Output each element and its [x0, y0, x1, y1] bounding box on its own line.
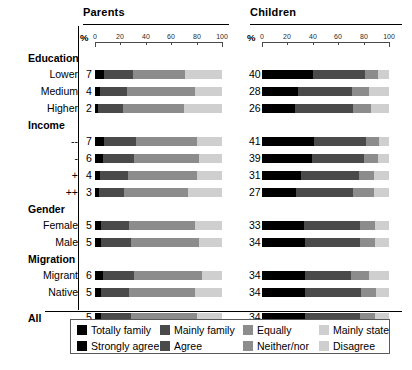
row-value-parents: 7 [86, 68, 92, 80]
axis-tick-label: 0 [93, 33, 97, 40]
legend-label: Disagree [333, 341, 375, 352]
bar-children [262, 221, 389, 230]
header-rule-children [250, 24, 402, 25]
legend-swatch [319, 325, 329, 335]
bar-segment-agree [314, 137, 366, 146]
row-value-parents: 4 [86, 169, 92, 181]
axis-tick [95, 42, 96, 47]
bar-segment-strongly-agree [262, 238, 305, 247]
bar-segment-strongly-agree [262, 221, 304, 230]
row-value-parents: 6 [86, 269, 92, 281]
axis-tick [120, 42, 121, 45]
bar-segment-equally [124, 188, 188, 197]
bar-segment-disagree [375, 221, 389, 230]
bar-segment-neither-nor [360, 238, 375, 247]
bar-segment-mainly-family [101, 288, 129, 297]
bar-segment-mainly-state [202, 271, 222, 280]
bar-segment-mainly-family [99, 188, 124, 197]
axis-tick [222, 42, 223, 47]
bar-segment-agree [305, 271, 351, 280]
axis-tick [389, 42, 390, 47]
bar-segment-equally [136, 137, 197, 146]
axis-tick [287, 42, 288, 45]
legend-swatch [319, 341, 329, 351]
bar-children [262, 171, 389, 180]
bar-segment-mainly-state [197, 137, 222, 146]
legend-item-totally-family: Totally family [77, 323, 151, 337]
row-value-children: 34 [249, 236, 261, 248]
bar-segment-disagree [378, 70, 389, 79]
axis-tick-label: 80 [360, 33, 368, 40]
bar-segment-equally [134, 271, 201, 280]
bar-segment-mainly-state [188, 188, 222, 197]
bar-segment-mainly-state [184, 104, 222, 113]
axis-tick [171, 42, 172, 45]
bar-parents [95, 238, 222, 247]
legend-label: Mainly family [174, 325, 235, 336]
row-value-parents: 6 [86, 152, 92, 164]
legend-item-neither-nor: Neither/nor [243, 339, 309, 353]
bar-segment-mainly-family [103, 154, 135, 163]
bar-segment-neither-nor [352, 87, 369, 96]
bar-segment-mainly-family [100, 87, 127, 96]
bar-segment-agree [305, 288, 361, 297]
row-value-children: 33 [249, 219, 261, 231]
bar-segment-mainly-state [195, 288, 222, 297]
bar-segment-agree [296, 188, 353, 197]
bar-segment-mainly-family [100, 171, 128, 180]
bar-children [262, 87, 389, 96]
row-label-++: ++ [0, 186, 86, 198]
bar-segment-mainly-state [195, 87, 222, 96]
bar-segment-mainly-state [195, 221, 222, 230]
bar-segment-equally [134, 154, 199, 163]
bar-parents [95, 288, 222, 297]
legend-item-agree: Agree [160, 339, 202, 353]
group-label-gender: Gender [0, 203, 86, 215]
row-label-Lower: Lower [0, 68, 86, 80]
bar-segment-mainly-family [103, 271, 135, 280]
bar-segment-totally-family [95, 137, 104, 146]
bar-segment-agree [298, 87, 353, 96]
bar-parents [95, 221, 222, 230]
group-label-education: Education [0, 52, 86, 64]
bar-segment-mainly-state [197, 171, 222, 180]
bar-segment-strongly-agree [262, 154, 312, 163]
bar-children [262, 154, 389, 163]
axis-unit-label: % [80, 32, 88, 43]
bar-segment-agree [304, 221, 360, 230]
bar-parents [95, 154, 222, 163]
row-value-children: 40 [249, 68, 261, 80]
bar-segment-agree [295, 104, 353, 113]
row-value-children: 28 [249, 85, 261, 97]
bar-children [262, 271, 389, 280]
bar-segment-neither-nor [360, 221, 375, 230]
legend-item-disagree: Disagree [319, 339, 375, 353]
row-label-Female: Female [0, 219, 86, 231]
bar-segment-neither-nor [365, 70, 378, 79]
row-label-Higher: Higher [0, 102, 86, 114]
row-label-Native: Native [0, 286, 86, 298]
bar-segment-equally [133, 70, 185, 79]
panel-title-parents: Parents [83, 6, 125, 18]
bar-segment-totally-family [95, 154, 103, 163]
bar-segment-strongly-agree [262, 104, 295, 113]
axis-tick-label: 60 [167, 33, 175, 40]
bar-segment-neither-nor [366, 137, 379, 146]
bar-parents [95, 137, 222, 146]
bar-segment-equally [128, 171, 197, 180]
axis-tick-label: 40 [142, 33, 150, 40]
legend-swatch [243, 325, 253, 335]
bar-segment-equally [131, 238, 200, 247]
legend-item-equally: Equally [243, 323, 291, 337]
row-value-parents: 2 [86, 102, 92, 114]
row-value-children: 26 [249, 102, 261, 114]
row-value-children: 41 [249, 135, 261, 147]
bar-segment-mainly-family [101, 221, 129, 230]
bar-segment-strongly-agree [262, 137, 314, 146]
legend-item-mainly-state: Mainly state [319, 323, 389, 337]
row-value-parents: 5 [86, 236, 92, 248]
bar-parents [95, 87, 222, 96]
axis-line [262, 42, 389, 43]
row-value-children: 31 [249, 169, 261, 181]
bar-segment-agree [313, 70, 365, 79]
